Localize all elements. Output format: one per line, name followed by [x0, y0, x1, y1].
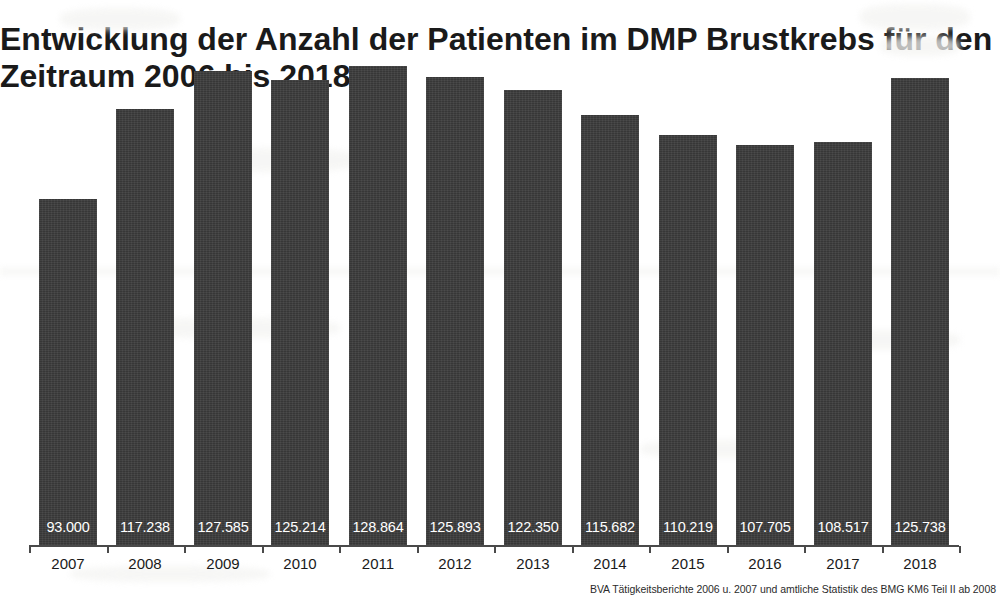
x-axis-label-2009: 2009 [184, 555, 262, 572]
bar-2014 [581, 115, 639, 545]
x-axis-tick-3 [262, 546, 264, 553]
x-axis-label-2010: 2010 [261, 555, 339, 572]
x-axis-tick-2 [184, 546, 186, 553]
x-axis-tick-11 [882, 546, 884, 553]
x-axis-tick-8 [649, 546, 651, 553]
x-axis-tick-0 [29, 546, 31, 553]
x-axis-label-2013: 2013 [494, 555, 572, 572]
bar-2009 [194, 71, 252, 545]
bar-value-label-2013: 122.350 [498, 519, 568, 535]
x-axis-label-2007: 2007 [29, 555, 107, 572]
bar-value-label-2007: 93.000 [33, 519, 103, 535]
x-axis-label-2015: 2015 [649, 555, 727, 572]
bar-2017 [814, 142, 872, 545]
x-axis-label-2008: 2008 [106, 555, 184, 572]
x-axis-label-2016: 2016 [726, 555, 804, 572]
bar-2016 [736, 145, 794, 545]
x-axis-tick-end [959, 546, 961, 553]
x-axis-tick-7 [572, 546, 574, 553]
bar-2013 [504, 90, 562, 545]
bar-value-label-2012: 125.893 [420, 519, 490, 535]
x-axis-tick-4 [339, 546, 341, 553]
bar-value-label-2018: 125.738 [885, 519, 955, 535]
x-axis-label-2012: 2012 [416, 555, 494, 572]
bar-2011 [349, 66, 407, 545]
x-axis-label-2017: 2017 [804, 555, 882, 572]
bar-value-label-2011: 128.864 [343, 519, 413, 535]
x-axis-label-2018: 2018 [881, 555, 959, 572]
bar-2018 [891, 78, 949, 545]
x-axis-tick-1 [107, 546, 109, 553]
bar-2012 [426, 77, 484, 545]
bar-value-label-2009: 127.585 [188, 519, 258, 535]
bar-value-label-2010: 125.214 [265, 519, 335, 535]
x-axis-tick-6 [494, 546, 496, 553]
source-note: BVA Tätigkeitsberichte 2006 u. 2007 und … [590, 583, 996, 595]
x-axis-tick-10 [804, 546, 806, 553]
bar-2008 [116, 109, 174, 545]
bar-2015 [659, 135, 717, 545]
x-axis-tick-5 [417, 546, 419, 553]
bar-value-label-2017: 108.517 [808, 519, 878, 535]
bar-value-label-2014: 115.682 [575, 519, 645, 535]
bar-value-label-2015: 110.219 [653, 519, 723, 535]
bar-value-label-2016: 107.705 [730, 519, 800, 535]
x-axis-tick-9 [727, 546, 729, 553]
x-axis-label-2011: 2011 [339, 555, 417, 572]
bar-value-label-2008: 117.238 [110, 519, 180, 535]
bar-chart-plot-area: 93.0002007117.2382008127.5852009125.2142… [0, 0, 1000, 604]
bar-2010 [271, 80, 329, 545]
x-axis-label-2014: 2014 [571, 555, 649, 572]
bar-2007 [39, 199, 97, 545]
